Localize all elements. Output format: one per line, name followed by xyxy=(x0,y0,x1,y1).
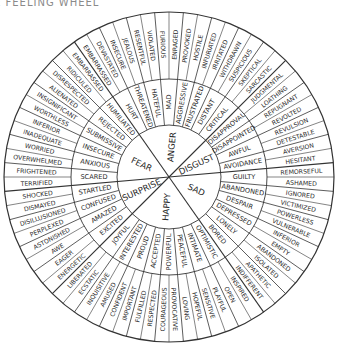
middle-emotion: AWFUL xyxy=(227,144,252,159)
wheel-dividers xyxy=(4,12,334,342)
outer-emotion: REMORSEFUL xyxy=(280,167,323,176)
outer-emotion: HOPEFUL xyxy=(191,292,204,322)
outer-emotion: OVERWHELMED xyxy=(13,153,63,166)
middle-emotion: PEACEFUL xyxy=(175,234,189,269)
middle-emotion: SCARED xyxy=(80,173,107,181)
outer-emotion: PROVOCATIVE xyxy=(170,287,179,331)
middle-emotion: GUILTY xyxy=(233,173,257,181)
feelings-wheel: ANGERHURTTHREATENEDHATEFULMADAGGRESSIVEF… xyxy=(0,0,338,351)
outer-emotion: FRIGHTENED xyxy=(16,167,57,176)
outer-emotion: AWE xyxy=(49,241,65,254)
outer-emotion: TERRIFIED xyxy=(19,179,53,187)
core-emotion-fear: FEAR xyxy=(130,155,154,173)
core-emotion-sad: SAD xyxy=(186,181,207,198)
outer-emotion: COURAGEOUS xyxy=(159,287,168,331)
outer-emotion: ASHAMED xyxy=(286,179,318,187)
outer-emotion: ENRAGED xyxy=(171,29,179,60)
outer-emotion: WORRIED xyxy=(24,142,55,155)
core-emotion-happy: HAPPY xyxy=(160,192,172,221)
outer-emotion: LOVING xyxy=(181,296,191,320)
outer-emotion: FURIOUS xyxy=(159,31,167,59)
middle-emotion: ANXIOUS xyxy=(80,157,111,170)
middle-emotion: ACCEPTED xyxy=(149,233,163,269)
outer-emotion: PROVOKED xyxy=(181,28,192,63)
middle-emotion: HATEFUL xyxy=(149,88,162,119)
core-emotion-anger: ANGER xyxy=(165,131,178,162)
middle-emotion: POWERFUL xyxy=(165,233,173,270)
outer-emotion: RESPECTED xyxy=(146,290,158,327)
outer-emotion: AVERSION xyxy=(282,141,315,155)
middle-emotion: MAD xyxy=(165,94,173,109)
